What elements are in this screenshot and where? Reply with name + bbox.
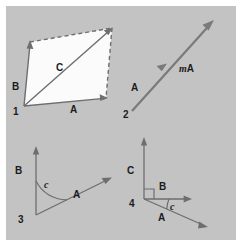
panel-2-index: 2 bbox=[123, 110, 129, 120]
panel-3-label-b: B bbox=[15, 166, 22, 176]
panel-1-label-c: C bbox=[56, 63, 63, 73]
panel-1-parallelogram: C B A 1 bbox=[6, 6, 121, 123]
vector-a-arrowhead bbox=[198, 222, 208, 229]
right-angle-marker bbox=[144, 189, 154, 199]
panel-2-label-a: A bbox=[131, 83, 138, 93]
angle-c-arc bbox=[36, 181, 67, 200]
panel-4-label-c: C bbox=[127, 166, 134, 176]
vector-b-arrowhead bbox=[33, 146, 39, 155]
vector-diagram-figure: C B A 1 A mA 2 bbox=[0, 0, 242, 246]
panel-4-label-angle-c: c bbox=[170, 202, 174, 212]
panel-3-angle-between-vectors: B A c 3 bbox=[6, 123, 121, 240]
panel-1-label-a: A bbox=[70, 105, 77, 115]
panel-4-three-vectors: C B A c 4 bbox=[121, 123, 236, 240]
panel-2-scalar-m: m bbox=[179, 63, 187, 74]
panel-4-graphics bbox=[121, 123, 236, 240]
vector-a-arrowhead bbox=[102, 178, 112, 185]
panel-2-scalar-multiple: A mA 2 bbox=[121, 6, 236, 123]
panel-2-scalar-vector-a: A bbox=[187, 63, 194, 74]
panel-3-index: 3 bbox=[18, 215, 24, 225]
panel-1-index: 1 bbox=[13, 107, 19, 117]
angle-c-arc bbox=[167, 199, 169, 209]
figure-canvas: C B A 1 A mA 2 bbox=[6, 6, 236, 240]
vector-ma-shaft bbox=[132, 25, 210, 112]
vector-a-arrowhead bbox=[157, 64, 167, 72]
vector-b-arrowhead bbox=[184, 196, 192, 203]
panel-3-label-a: A bbox=[73, 190, 80, 200]
vector-c-arrowhead bbox=[141, 137, 147, 146]
panel-2-label-ma: mA bbox=[179, 64, 194, 74]
panel-4-label-b: B bbox=[159, 182, 166, 192]
panel-1-graphics bbox=[6, 6, 121, 123]
panel-3-label-angle-c: c bbox=[44, 180, 48, 190]
panel-4-index: 4 bbox=[129, 199, 135, 209]
panel-4-label-a: A bbox=[158, 213, 165, 223]
panel-1-label-b: B bbox=[12, 82, 19, 92]
vector-ma-arrowhead bbox=[203, 20, 215, 30]
